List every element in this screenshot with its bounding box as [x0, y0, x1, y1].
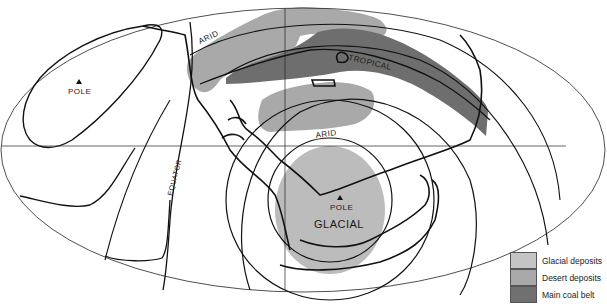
desert-deposit-region-central	[258, 82, 374, 132]
north-pole-loop	[23, 25, 162, 148]
pole-label-left: POLE	[68, 87, 91, 96]
legend-item-desert: Desert deposits	[510, 269, 607, 286]
legend-swatch-coal	[510, 286, 537, 303]
legend-label-coal: Main coal belt	[542, 290, 594, 300]
coastline-fragment-1	[228, 117, 246, 124]
legend-item-coal: Main coal belt	[510, 286, 607, 303]
pole-marker-left	[76, 79, 82, 84]
legend-swatch-glacial	[510, 252, 537, 269]
legend-label-glacial: Glacial deposits	[542, 256, 602, 266]
coastline-fragment-2	[222, 134, 244, 140]
lower-left-boundary-2	[105, 200, 170, 261]
legend-item-glacial: Glacial deposits	[510, 252, 607, 269]
legend-swatch-desert	[510, 269, 537, 286]
glacial-label: GLACIAL	[314, 218, 364, 230]
lower-left-boundary	[20, 148, 135, 206]
pole-label-center: POLE	[330, 203, 353, 212]
equator-label: EQUATOR	[166, 158, 183, 196]
legend-label-desert: Desert deposits	[542, 273, 601, 283]
map-legend: Glacial deposits Desert deposits Main co…	[510, 252, 607, 303]
